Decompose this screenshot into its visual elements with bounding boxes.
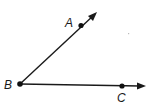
point-a <box>78 23 83 28</box>
label-a: A <box>64 16 73 30</box>
scan-artifact <box>128 33 129 34</box>
point-c <box>119 83 124 88</box>
label-c: C <box>117 91 126 105</box>
ray-bc-arrowhead-icon <box>137 83 146 90</box>
angle-diagram: A B C <box>0 0 157 110</box>
point-b <box>17 81 23 87</box>
label-b: B <box>4 78 12 92</box>
